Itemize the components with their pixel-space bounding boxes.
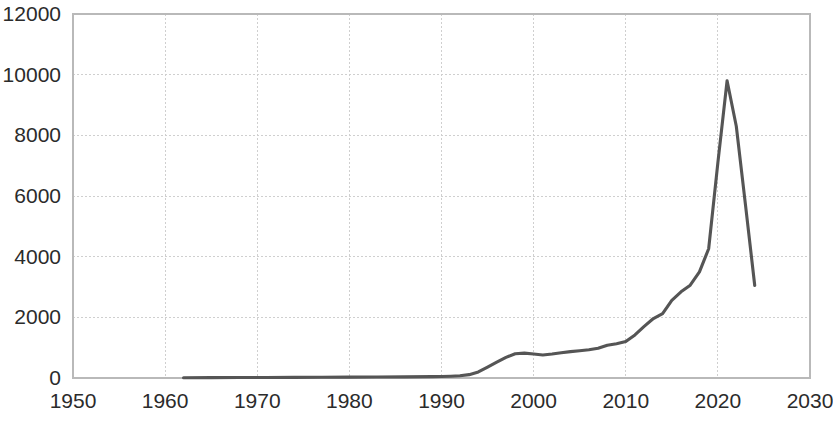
x-axis-tick-label: 2010 bbox=[602, 389, 649, 412]
x-axis-tick-labels: 195019601970198019902000201020202030 bbox=[50, 389, 833, 412]
y-axis-tick-label: 10000 bbox=[3, 63, 61, 86]
y-axis-tick-label: 0 bbox=[49, 366, 61, 389]
x-axis-tick-label: 1970 bbox=[234, 389, 281, 412]
x-axis-tick-label: 1960 bbox=[142, 389, 189, 412]
x-axis-tick-label: 2020 bbox=[695, 389, 742, 412]
y-axis-tick-labels: 020004000600080001000012000 bbox=[3, 2, 61, 389]
y-axis-tick-label: 2000 bbox=[14, 305, 61, 328]
y-axis-tick-label: 12000 bbox=[3, 2, 61, 25]
y-axis-tick-label: 8000 bbox=[14, 123, 61, 146]
x-axis-tick-label: 1980 bbox=[326, 389, 373, 412]
chart-container: 020004000600080001000012000 195019601970… bbox=[0, 0, 833, 421]
x-axis-tick-label: 2000 bbox=[510, 389, 557, 412]
x-axis-tick-label: 1950 bbox=[50, 389, 97, 412]
y-axis-tick-label: 6000 bbox=[14, 184, 61, 207]
y-axis-tick-label: 4000 bbox=[14, 245, 61, 268]
x-axis-tick-label: 1990 bbox=[418, 389, 465, 412]
x-axis-tick-label: 2030 bbox=[787, 389, 833, 412]
line-chart: 020004000600080001000012000 195019601970… bbox=[0, 0, 833, 421]
